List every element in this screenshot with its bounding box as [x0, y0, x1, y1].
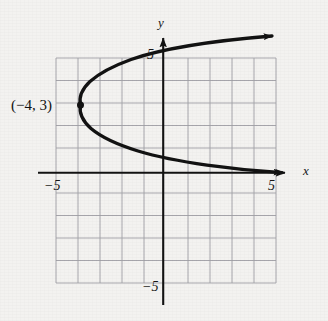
x-axis-label: x: [303, 164, 309, 177]
y-tick-negative-5: −5: [142, 280, 158, 294]
y-tick-positive-5: 5: [147, 48, 154, 62]
parabola-curve: [77, 36, 282, 173]
y-axis-label: y: [158, 16, 164, 29]
parabola-lower-branch: [80, 105, 282, 173]
vertex-dot: [77, 102, 84, 109]
parabola-upper-branch: [80, 36, 272, 105]
x-tick-positive-5: 5: [268, 179, 275, 193]
x-tick-negative-5: −5: [44, 179, 60, 193]
graph-figure: y x 5 −5 −5 5 (−4, 3): [0, 0, 328, 321]
vertex-point-label: (−4, 3): [11, 98, 52, 113]
plot-canvas: [0, 0, 328, 321]
